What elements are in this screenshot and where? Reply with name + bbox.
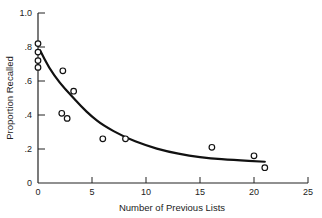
data-point — [64, 116, 70, 122]
axes: 0.2.4.6.81.00510152025 — [19, 8, 313, 197]
data-point — [71, 88, 77, 94]
x-tick-label: 5 — [89, 187, 94, 197]
fitted-curve-path — [40, 50, 265, 161]
x-tick-label: 20 — [249, 187, 259, 197]
data-point — [100, 136, 106, 142]
x-tick-label: 0 — [35, 187, 40, 197]
y-tick-label: .8 — [24, 42, 32, 52]
chart: 0.2.4.6.81.00510152025 Number of Previou… — [0, 0, 322, 218]
data-point — [35, 65, 41, 71]
data-point — [209, 145, 215, 151]
x-tick-label: 25 — [303, 187, 313, 197]
data-point — [35, 49, 41, 55]
y-tick-label: .2 — [24, 144, 32, 154]
y-tick-label: .6 — [24, 76, 32, 86]
data-point — [123, 136, 129, 142]
x-tick-label: 10 — [141, 187, 151, 197]
fitted-curve — [40, 50, 265, 161]
data-points — [35, 41, 267, 171]
x-axis-title: Number of Previous Lists — [119, 202, 225, 213]
y-tick-label: 1.0 — [19, 8, 32, 18]
y-axis-title: Proportion Recalled — [4, 56, 15, 139]
y-tick-label: .4 — [24, 110, 32, 120]
y-tick-label: 0 — [27, 178, 32, 188]
data-point — [60, 68, 66, 74]
data-point — [251, 153, 257, 159]
data-point — [59, 111, 65, 117]
data-point — [35, 58, 41, 64]
data-point — [262, 165, 268, 171]
x-tick-label: 15 — [195, 187, 205, 197]
data-point — [35, 41, 41, 47]
